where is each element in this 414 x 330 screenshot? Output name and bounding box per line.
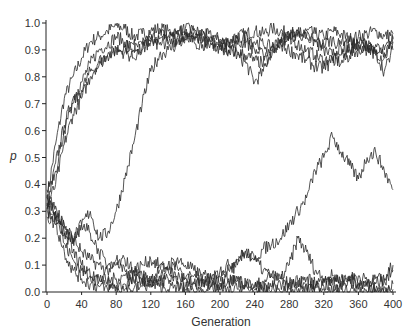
y-tick-label: 0.7 [25,98,40,110]
y-tick-label: 0.9 [25,44,40,56]
series-lines [47,23,393,292]
y-axis-label: p [9,149,17,163]
x-tick-label: 240 [245,298,263,310]
x-ticks: 04080120160200240280320360400 [44,292,402,310]
series-line-run-6 [47,132,393,284]
y-tick-label: 0.5 [25,152,40,164]
series-line-run-7 [47,194,393,287]
y-tick-label: 1.0 [25,17,40,29]
x-tick-label: 200 [211,298,229,310]
y-tick-label: 0.1 [25,259,40,271]
x-tick-label: 0 [44,298,50,310]
y-tick-label: 0.4 [25,178,40,190]
x-tick-label: 160 [176,298,194,310]
y-ticks: 0.00.10.20.30.40.50.60.70.80.91.0 [25,17,46,298]
series-line-run-3 [47,30,393,206]
x-tick-label: 120 [142,298,160,310]
y-tick-label: 0.6 [25,125,40,137]
y-tick-label: 0.2 [25,232,40,244]
series-line-run-4 [47,27,393,192]
y-tick-label: 0.8 [25,71,40,83]
y-tick-label: 0.0 [25,286,40,298]
y-tick-label: 0.3 [25,205,40,217]
line-chart: 0.00.10.20.30.40.50.60.70.80.91.0 040801… [0,0,414,330]
x-tick-label: 400 [384,298,402,310]
series-line-run-2 [47,25,393,211]
x-tick-label: 80 [110,298,122,310]
x-tick-label: 40 [75,298,87,310]
x-tick-label: 360 [349,298,367,310]
x-tick-label: 320 [315,298,333,310]
x-tick-label: 280 [280,298,298,310]
x-axis-label: Generation [191,315,250,329]
